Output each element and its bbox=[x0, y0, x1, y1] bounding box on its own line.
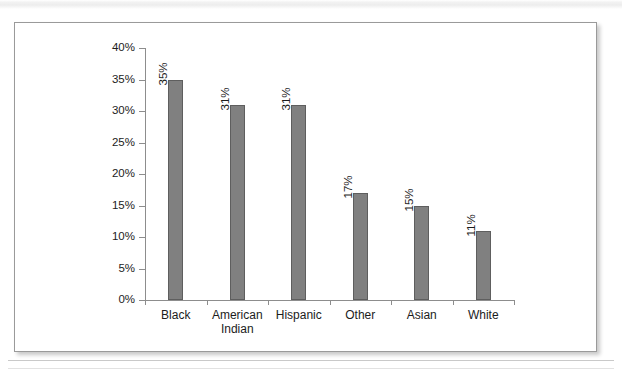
bar-value-label: 17% bbox=[342, 175, 354, 198]
y-axis-tick bbox=[139, 237, 145, 238]
bar-value-label: 31% bbox=[219, 87, 231, 110]
y-axis-tick bbox=[139, 174, 145, 175]
x-axis-tick bbox=[330, 300, 331, 305]
bar bbox=[230, 105, 245, 300]
y-axis-tick-label: 0% bbox=[87, 294, 135, 306]
y-axis-tick-label-text: 15% bbox=[89, 200, 135, 212]
x-axis-category-label: Other bbox=[330, 308, 392, 322]
x-axis-category-label: American Indian bbox=[207, 308, 269, 336]
x-axis-tick bbox=[391, 300, 392, 305]
bar-chart-plot: 0%5%10%15%20%25%30%35%40% 35%31%31%17%15… bbox=[15, 23, 598, 353]
x-axis-tick bbox=[145, 300, 146, 305]
y-axis-tick-label-text: 40% bbox=[89, 42, 135, 54]
y-axis-tick-label-text: 30% bbox=[89, 105, 135, 117]
y-axis-tick-label-text: 0% bbox=[89, 294, 135, 306]
y-axis-tick bbox=[139, 206, 145, 207]
y-axis-tick-label: 25% bbox=[87, 137, 135, 149]
y-axis-tick-label-text: 25% bbox=[89, 137, 135, 149]
y-axis-tick-label: 40% bbox=[87, 42, 135, 54]
y-axis-tick-label: 35% bbox=[87, 74, 135, 86]
bar-value-label: 35% bbox=[158, 62, 170, 85]
y-axis-tick-label-text: 35% bbox=[89, 74, 135, 86]
page-bottom-rule bbox=[8, 360, 614, 361]
y-axis-line bbox=[145, 48, 146, 301]
y-axis-tick-label-text: 5% bbox=[89, 263, 135, 275]
x-axis-tick bbox=[514, 300, 515, 305]
x-axis-tick bbox=[268, 300, 269, 305]
y-axis-tick-label-text: 20% bbox=[89, 168, 135, 180]
bar-value-label: 31% bbox=[281, 87, 293, 110]
x-axis-category-label: Hispanic bbox=[268, 308, 330, 322]
bar bbox=[168, 80, 183, 301]
bar bbox=[414, 206, 429, 301]
bar bbox=[476, 231, 491, 300]
y-axis-tick-label: 5% bbox=[87, 263, 135, 275]
y-axis-tick bbox=[139, 269, 145, 270]
y-axis-tick-label: 10% bbox=[87, 231, 135, 243]
figure-frame: 0%5%10%15%20%25%30%35%40% 35%31%31%17%15… bbox=[14, 22, 597, 352]
page-bottom-rule-secondary bbox=[8, 368, 614, 369]
bar-value-label: 11% bbox=[465, 214, 477, 236]
y-axis-tick bbox=[139, 111, 145, 112]
y-axis-tick bbox=[139, 143, 145, 144]
bar bbox=[353, 193, 368, 300]
bar-value-label: 15% bbox=[404, 188, 416, 211]
y-axis-tick-label-text: 10% bbox=[89, 231, 135, 243]
y-axis-tick-label: 20% bbox=[87, 168, 135, 180]
y-axis-tick-label: 15% bbox=[87, 200, 135, 212]
y-axis-tick bbox=[139, 48, 145, 49]
x-axis-category-label: Asian bbox=[391, 308, 453, 322]
y-axis-tick-label: 30% bbox=[87, 105, 135, 117]
x-axis-category-label: White bbox=[453, 308, 515, 322]
page-top-scan-band bbox=[0, 0, 622, 9]
x-axis-tick bbox=[207, 300, 208, 305]
y-axis-tick bbox=[139, 80, 145, 81]
x-axis-category-label: Black bbox=[145, 308, 207, 322]
x-axis-tick bbox=[453, 300, 454, 305]
bar bbox=[291, 105, 306, 300]
